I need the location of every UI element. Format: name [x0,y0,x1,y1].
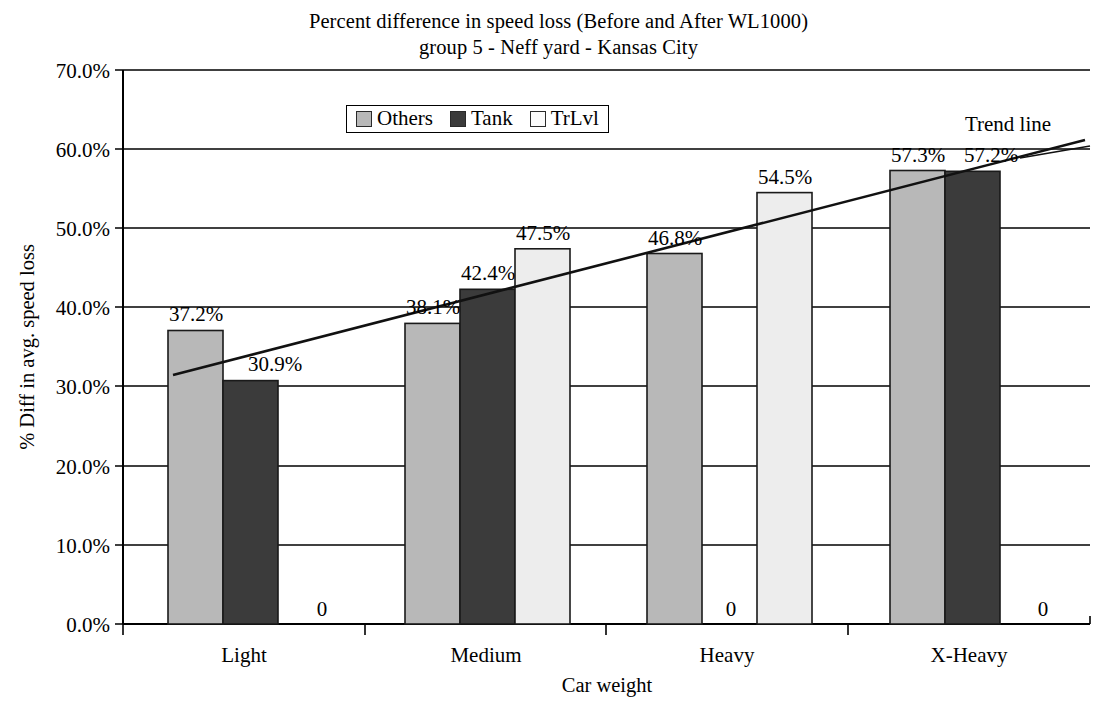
bar-medium-others[interactable] [405,323,460,624]
label-xheavy-others: 57.3% [891,143,945,167]
legend-swatch-tank-icon [450,111,466,127]
bar-heavy-others[interactable] [647,254,702,625]
bar-heavy-trlvl[interactable] [757,193,812,624]
label-heavy-trlvl: 54.5% [758,165,812,189]
y-tick-label-30: 30.0% [56,375,110,399]
y-tick-label-20: 20.0% [56,455,110,479]
label-heavy-others: 46.8% [648,226,702,250]
legend-entry-trlvl[interactable]: TrLvl [530,108,599,129]
legend-entry-tank[interactable]: Tank [450,108,513,129]
label-heavy-tank: 0 [726,597,737,621]
y-tick-label-60: 60.0% [56,138,110,162]
chart-root: Percent difference in speed loss (Before… [0,0,1117,708]
y-tick-label-70: 70.0% [56,59,110,83]
y-axis-title: % Diff in avg. speed loss [16,244,39,450]
legend-label-trlvl: TrLvl [551,108,599,129]
x-axis-title: Car weight [562,674,653,697]
label-medium-others: 38.1% [406,295,460,319]
bar-group-xheavy [890,171,1000,625]
y-tick-label-50: 50.0% [56,217,110,241]
label-light-trlvl: 0 [317,597,328,621]
bar-light-tank[interactable] [223,381,278,624]
legend-entry-others[interactable]: Others [356,108,433,129]
label-medium-trlvl: 47.5% [516,221,570,245]
legend[interactable]: Others Tank TrLvl [346,105,609,133]
legend-swatch-others-icon [356,111,372,127]
label-xheavy-tank: 57.2% [964,143,1018,167]
cat-label-medium: Medium [450,643,521,667]
y-axis-ticks [115,70,123,624]
label-light-others: 37.2% [169,302,223,326]
y-axis-tick-labels: 70.0% 60.0% 50.0% 40.0% 30.0% 20.0% 10.0… [56,59,110,637]
bar-medium-trlvl[interactable] [515,249,570,624]
bar-group-heavy [647,193,812,624]
x-axis-category-labels: Light Medium Heavy X-Heavy [221,643,1008,667]
legend-label-tank: Tank [471,108,513,129]
bar-medium-tank[interactable] [460,289,515,624]
bar-xheavy-tank[interactable] [945,171,1000,624]
label-light-tank: 30.9% [248,352,302,376]
cat-label-xheavy: X-Heavy [931,643,1008,667]
label-medium-tank: 42.4% [461,261,515,285]
trend-line-annotation: Trend line [965,112,1051,136]
cat-label-light: Light [221,643,267,667]
y-tick-label-10: 10.0% [56,534,110,558]
bar-xheavy-others[interactable] [890,171,945,625]
y-tick-label-40: 40.0% [56,296,110,320]
y-tick-label-0: 0.0% [66,613,110,637]
legend-swatch-trlvl-icon [530,111,546,127]
cat-label-heavy: Heavy [700,643,755,667]
label-xheavy-trlvl: 0 [1038,597,1049,621]
x-axis-category-ticks [123,624,848,635]
legend-label-others: Others [377,108,433,129]
